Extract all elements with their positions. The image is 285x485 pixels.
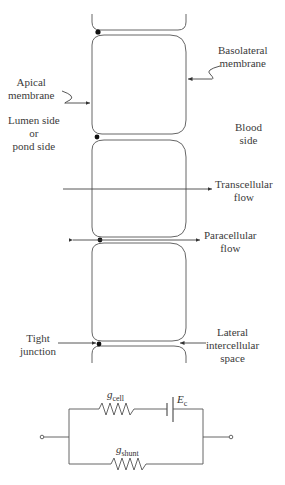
label-transcellular-flow: Transcellular flow bbox=[215, 178, 273, 204]
label-e-c: Ec bbox=[177, 393, 187, 408]
terminal-left bbox=[40, 435, 44, 439]
basolateral-pointer bbox=[188, 66, 220, 79]
tight-junction-1 bbox=[95, 29, 100, 34]
label-lateral-intercellular-space: Lateral intercellular space bbox=[206, 326, 259, 365]
tight-junction-2 bbox=[95, 135, 100, 140]
label-blood-side: Blood side bbox=[235, 121, 262, 147]
label-paracellular-flow: Paracellular flow bbox=[204, 229, 257, 255]
label-basolateral-membrane: Basolateral membrane bbox=[218, 44, 267, 70]
terminal-right bbox=[229, 435, 233, 439]
cell-2 bbox=[92, 140, 186, 237]
g-cell-resistor bbox=[99, 403, 134, 415]
label-tight-junction: Tight junction bbox=[20, 332, 56, 358]
cell-1 bbox=[92, 35, 186, 134]
cell-3 bbox=[92, 243, 186, 341]
label-g-shunt: gshunt bbox=[116, 443, 139, 458]
g-shunt-resistor bbox=[111, 458, 146, 470]
tight-junction-4 bbox=[97, 342, 102, 347]
equivalent-circuit bbox=[40, 397, 233, 470]
label-apical-membrane: Apical membrane bbox=[8, 76, 54, 102]
label-g-cell: gcell bbox=[107, 388, 124, 403]
cell-top-partial bbox=[92, 14, 186, 30]
apical-pointer bbox=[62, 91, 90, 103]
cell-bottom-partial bbox=[92, 346, 186, 363]
label-lumen-side: Lumen side or pond side bbox=[8, 114, 60, 153]
